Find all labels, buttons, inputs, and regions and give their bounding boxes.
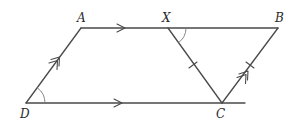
equal-length-tick-icon bbox=[246, 62, 254, 68]
vertex-label-D: D bbox=[19, 107, 30, 121]
geometry-diagram: A X B C D bbox=[0, 0, 299, 125]
segment-XC bbox=[168, 28, 222, 103]
angle-arc-D-icon bbox=[37, 88, 45, 103]
vertex-label-B: B bbox=[274, 11, 284, 25]
vertex-label-X: X bbox=[161, 11, 171, 25]
vertex-label-C: C bbox=[216, 107, 225, 121]
vertex-label-A: A bbox=[76, 11, 86, 25]
segment-DA bbox=[26, 28, 81, 103]
angle-arc-X-icon bbox=[179, 28, 187, 43]
parallelogram-figure: A X B C D bbox=[0, 0, 299, 125]
